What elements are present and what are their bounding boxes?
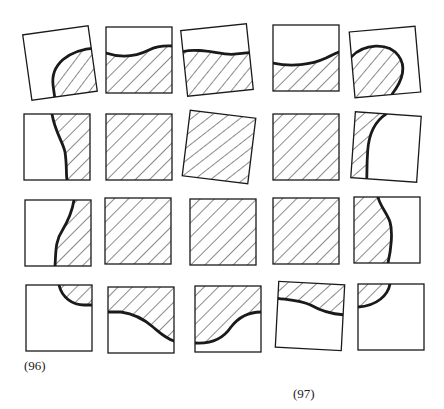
hatched-region: [273, 198, 339, 264]
tile-r2-c3: [182, 110, 256, 184]
tile-r3-c3: [190, 199, 256, 265]
tile-r2-c5: [351, 112, 421, 182]
tile-r2-c4: [273, 114, 339, 180]
tile-r3-c1: [25, 200, 91, 266]
tile-r3-c5: [354, 197, 420, 263]
tile-r4-c2: [108, 287, 174, 353]
figure-label-96: (96): [24, 358, 46, 374]
hatched-region: [190, 199, 256, 265]
hatched-region: [106, 114, 172, 180]
tile-r1-c4: [273, 25, 339, 91]
tile-r4-c4: [275, 281, 344, 350]
tile-r1-c2: [106, 27, 172, 93]
figure-label-97: (97): [293, 386, 315, 402]
hatched-region: [105, 198, 171, 264]
tile-r1-c5: [349, 26, 421, 98]
tile-r4-c5: [358, 284, 424, 350]
tile-puzzle-figure: [0, 0, 444, 409]
tile-r1-c3: [181, 24, 254, 97]
hatched-region: [182, 110, 256, 184]
tile-r3-c2: [105, 198, 171, 264]
hatched-region: [273, 114, 339, 180]
tile-grid: [23, 24, 424, 353]
tile-r2-c2: [106, 114, 172, 180]
tile-r3-c4: [273, 198, 339, 264]
tile-r4-c3: [195, 286, 261, 352]
tile-r4-c1: [26, 285, 92, 351]
tile-r1-c1: [23, 25, 102, 100]
tile-r2-c1: [24, 114, 90, 180]
